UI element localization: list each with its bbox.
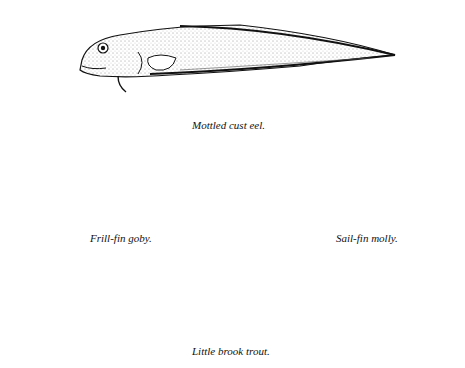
fish-plate-illustrations [0, 0, 465, 368]
caption-little-brook-trout: Little brook trout. [192, 345, 270, 357]
caption-sail-fin-molly: Sail-fin molly. [336, 232, 398, 244]
mottled-cust-eel-illustration [80, 25, 395, 92]
caption-mottled-cust-eel: Mottled cust eel. [192, 119, 265, 131]
caption-frill-fin-goby: Frill-fin goby. [90, 232, 152, 244]
